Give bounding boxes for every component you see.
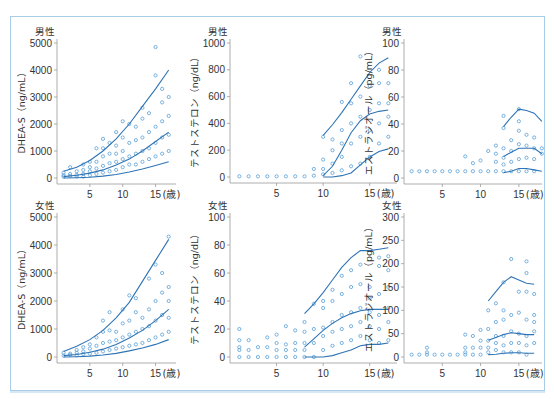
data-point — [433, 170, 436, 173]
data-point — [340, 169, 343, 172]
data-point — [448, 170, 451, 173]
data-point — [167, 285, 170, 288]
chart-female-testosterone: 女性テストステロン（ng/dL）02040608010051015(歳) — [180, 200, 365, 380]
data-points — [62, 45, 170, 178]
data-point — [161, 271, 164, 274]
data-point — [525, 318, 528, 321]
data-point — [322, 135, 325, 138]
data-point — [128, 319, 131, 322]
data-point — [108, 329, 111, 332]
x-tick-label: 5 — [87, 368, 93, 379]
data-point — [134, 343, 137, 346]
data-point — [247, 175, 250, 178]
data-point — [533, 292, 536, 295]
data-point — [540, 147, 543, 150]
data-point — [525, 170, 528, 173]
y-tick-label: 1000 — [30, 324, 53, 335]
y-tick-label: 300 — [382, 212, 399, 223]
data-point — [161, 291, 164, 294]
y-axis-title: エストラジオール（pg/mL） — [363, 46, 374, 176]
y-tick-label: 0 — [393, 173, 399, 184]
data-point — [312, 327, 315, 330]
data-point — [517, 170, 520, 173]
x-tick-label: 15 — [513, 189, 525, 200]
data-point — [533, 313, 536, 316]
data-point — [275, 355, 278, 358]
data-point — [141, 316, 144, 319]
chart-female-estradiol: 女性エストラジオール（pg/mL）05010015020025030051015… — [365, 200, 550, 380]
data-point — [141, 117, 144, 120]
data-points — [410, 108, 543, 173]
data-point — [349, 325, 352, 328]
x-unit-label: (歳) — [526, 368, 544, 379]
data-point — [154, 45, 157, 48]
percentile-line-upper — [504, 109, 542, 127]
data-point — [147, 112, 150, 115]
data-point — [349, 142, 352, 145]
data-point — [494, 170, 497, 173]
percentile-line-upper — [488, 277, 534, 301]
y-tick-label: 4000 — [30, 65, 53, 76]
data-point — [121, 346, 124, 349]
data-point — [167, 235, 170, 238]
data-point — [349, 102, 352, 105]
y-tick-label: 5000 — [30, 38, 53, 49]
data-point — [517, 120, 520, 123]
x-tick-label: 10 — [475, 189, 487, 200]
data-point — [115, 160, 118, 163]
data-point — [275, 175, 278, 178]
data-point — [533, 320, 536, 323]
data-point — [154, 299, 157, 302]
data-point — [108, 152, 111, 155]
data-point — [134, 139, 137, 142]
data-point — [134, 297, 137, 300]
data-point — [425, 170, 428, 173]
x-tick-label: 10 — [318, 368, 330, 379]
percentile-line-median — [504, 148, 542, 156]
data-point — [121, 158, 124, 161]
x-tick-label: 5 — [274, 368, 280, 379]
data-point — [479, 328, 482, 331]
data-point — [517, 290, 520, 293]
data-point — [121, 336, 124, 339]
x-unit-label: (歳) — [526, 189, 544, 200]
data-point — [108, 311, 111, 314]
data-point — [494, 152, 497, 155]
y-tick-label: 0 — [219, 172, 225, 183]
data-point — [517, 311, 520, 314]
y-tick-label: 4000 — [30, 240, 53, 251]
data-point — [359, 283, 362, 286]
percentile-line-median — [488, 333, 534, 340]
data-point — [294, 348, 297, 351]
data-point — [471, 346, 474, 349]
data-point — [141, 136, 144, 139]
panel-sex-label: 男性 — [208, 26, 228, 37]
data-point — [108, 340, 111, 343]
data-point — [284, 175, 287, 178]
data-point — [517, 341, 520, 344]
y-tick-label: 200 — [382, 258, 399, 269]
data-point — [147, 339, 150, 342]
data-point — [128, 344, 131, 347]
data-point — [349, 165, 352, 168]
data-point — [322, 167, 325, 170]
data-point — [115, 131, 118, 134]
data-point — [121, 120, 124, 123]
data-point — [322, 348, 325, 351]
y-tick-label: 2000 — [30, 296, 53, 307]
data-point — [82, 168, 85, 171]
data-point — [448, 353, 451, 356]
data-point — [502, 163, 505, 166]
data-point — [510, 341, 513, 344]
x-tick-label: 10 — [117, 189, 129, 200]
data-point — [266, 355, 269, 358]
data-point — [525, 156, 528, 159]
data-point — [167, 299, 170, 302]
data-point — [121, 166, 124, 169]
y-tick-label: 60 — [214, 268, 226, 279]
data-point — [418, 353, 421, 356]
data-point — [121, 149, 124, 152]
y-tick-label: 1000 — [203, 38, 226, 49]
data-point — [134, 311, 137, 314]
data-point — [247, 339, 250, 342]
